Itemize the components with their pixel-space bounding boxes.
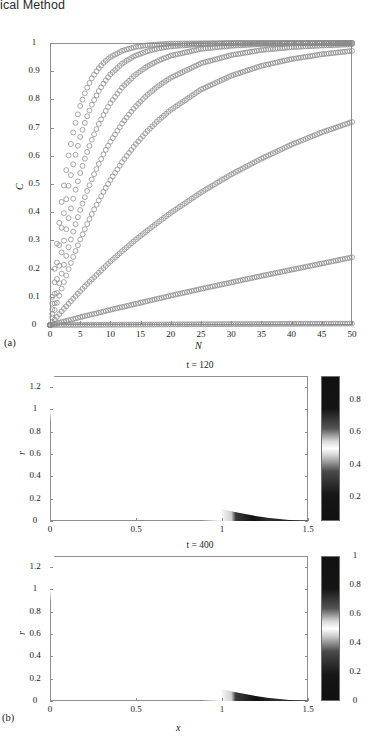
panel-b-top-ytick-right xyxy=(305,454,308,455)
panel-b-label: (b) xyxy=(2,712,14,723)
panel-b-bottom-ytick-label: 0.4 xyxy=(24,650,46,660)
panel-b-bottom-cbar-label: 0.2 xyxy=(344,666,366,676)
panel-b-bottom-ytick-right xyxy=(305,679,308,680)
panel-b-top-ytick-label: 1 xyxy=(24,403,46,413)
panel-a-xtick xyxy=(261,321,262,325)
panel-b-top-ytick-label: 0.6 xyxy=(24,448,46,458)
panel-a-y-axis-title: C xyxy=(14,183,25,190)
panel-a-xtick-label: 15 xyxy=(129,329,153,339)
panel-a-xtick-label: 30 xyxy=(219,329,243,339)
panel-a-ytick xyxy=(50,325,54,326)
panel-b-bottom-ytick-right xyxy=(305,701,308,702)
panel-b-bottom-ytick-label: 1.2 xyxy=(24,561,46,571)
panel-b-top-axes xyxy=(50,376,308,521)
panel-a-ytick xyxy=(50,297,54,298)
panel-a-label: (a) xyxy=(4,337,16,348)
panel-a-xtick-label: 25 xyxy=(189,329,213,339)
panel-b-top-colorbar xyxy=(321,376,340,521)
panel-b-top-y-axis-title: r xyxy=(16,451,27,455)
panel-a-ytick xyxy=(50,71,54,72)
panel-a-xtick xyxy=(322,321,323,325)
panel-a-xtick-label: 35 xyxy=(249,329,273,339)
panel-a-ytick xyxy=(50,240,54,241)
panel-b-bottom-cbar-label: 0 xyxy=(344,695,366,705)
panel-b-top-ytick-right xyxy=(305,499,308,500)
panel-b-top-xtick xyxy=(222,518,223,521)
panel-b-bottom-xtick-label: 1.5 xyxy=(296,704,320,714)
panel-b-top-ytick-label: 0.2 xyxy=(24,493,46,503)
panel-b-top-ytick-label: 0 xyxy=(24,515,46,525)
panel-a-xtick xyxy=(80,321,81,325)
running-header: ical Method xyxy=(0,0,65,12)
panel-b-top-cbar-label: 0.6 xyxy=(344,426,366,436)
panel-b-bottom-x-axis-title: x xyxy=(176,722,180,733)
panel-b-bottom-ytick-label: 1 xyxy=(24,583,46,593)
panel-a-ytick-label: 0.9 xyxy=(22,65,46,75)
panel-b-bottom-ytick xyxy=(50,701,53,702)
panel-b-top-ytick-right xyxy=(305,409,308,410)
panel-b-top-ytick-right xyxy=(305,521,308,522)
panel-b-top-ytick-label: 1.2 xyxy=(24,381,46,391)
panel-a-ytick xyxy=(50,99,54,100)
panel-b-top-ytick xyxy=(50,409,53,410)
panel-b-top-ytick xyxy=(50,476,53,477)
panel-b-bottom-xtick-label: 0 xyxy=(38,704,62,714)
panel-b-top-xtick xyxy=(136,518,137,521)
panel-b-bottom-cbar-label: 0.6 xyxy=(344,608,366,618)
panel-b-bottom-ytick-label: 0 xyxy=(24,695,46,705)
panel-a-xtick-label: 50 xyxy=(340,329,364,339)
panel-b-bottom-xtick-label: 1 xyxy=(210,704,234,714)
panel-b-top-ytick xyxy=(50,387,53,388)
panel-a-ytick xyxy=(50,43,54,44)
panel-a-x-axis-title: N xyxy=(195,340,202,351)
panel-a-ytick xyxy=(50,212,54,213)
panel-b-bottom-xtick xyxy=(136,698,137,701)
panel-b-top-xtick-label: 0.5 xyxy=(124,524,148,534)
figure-page: ical Method 0510152025303540455000.10.20… xyxy=(0,0,375,753)
panel-b-top-xtick-label: 0 xyxy=(38,524,62,534)
panel-b-top-ytick xyxy=(50,454,53,455)
panel-b-bottom-ytick xyxy=(50,567,53,568)
panel-b-bottom-xtick xyxy=(308,698,309,701)
panel-b-bottom-ytick-right xyxy=(305,656,308,657)
panel-a-ytick-label: 0.2 xyxy=(22,263,46,273)
panel-b-bottom-ytick-label: 0.2 xyxy=(24,673,46,683)
panel-b-top-xtick-label: 1.5 xyxy=(296,524,320,534)
panel-b-bottom-ytick-right xyxy=(305,634,308,635)
panel-b-bottom-ytick xyxy=(50,656,53,657)
panel-b-top-cbar-label: 0.2 xyxy=(344,491,366,501)
panel-a-xtick xyxy=(292,321,293,325)
panel-b-bottom-ytick xyxy=(50,589,53,590)
panel-a-ytick xyxy=(50,269,54,270)
panel-b-bottom-ytick-right xyxy=(305,612,308,613)
panel-b-top-ytick-label: 0.8 xyxy=(24,426,46,436)
panel-b-bottom-cbar-label: 0.4 xyxy=(344,637,366,647)
panel-b-bottom-axes xyxy=(50,556,308,701)
panel-b-bottom-y-axis-title: r xyxy=(16,631,27,635)
panel-b-bottom-ytick xyxy=(50,612,53,613)
panel-a-ytick-label: 0.8 xyxy=(22,93,46,103)
panel-a-ytick-label: 0.7 xyxy=(22,122,46,132)
panel-a-ytick-label: 0.1 xyxy=(22,291,46,301)
panel-b-top-ytick xyxy=(50,499,53,500)
panel-b-top-xtick-label: 1 xyxy=(210,524,234,534)
panel-b-top-ytick-label: 0.4 xyxy=(24,470,46,480)
panel-b-bottom-ytick xyxy=(50,634,53,635)
panel-b-bottom-ytick xyxy=(50,679,53,680)
panel-b-bottom-ytick-label: 0.6 xyxy=(24,628,46,638)
panel-b-top-title: t = 120 xyxy=(100,360,300,370)
panel-a-xtick-label: 0 xyxy=(38,329,62,339)
panel-a-xtick-label: 40 xyxy=(280,329,304,339)
panel-b-bottom-xtick-label: 0.5 xyxy=(124,704,148,714)
panel-a-xtick-label: 45 xyxy=(310,329,334,339)
panel-b-bottom-title: t = 400 xyxy=(100,540,300,550)
panel-a-xtick-label: 20 xyxy=(159,329,183,339)
panel-a-xtick-label: 10 xyxy=(98,329,122,339)
panel-b-bottom-ytick-right xyxy=(305,589,308,590)
panel-a-xtick xyxy=(171,321,172,325)
panel-a-ytick-label: 0.4 xyxy=(22,206,46,216)
panel-b-bottom-cbar-label: 0.8 xyxy=(344,579,366,589)
panel-b-top-ytick xyxy=(50,432,53,433)
panel-b-top-xtick xyxy=(308,518,309,521)
panel-a-xtick xyxy=(141,321,142,325)
